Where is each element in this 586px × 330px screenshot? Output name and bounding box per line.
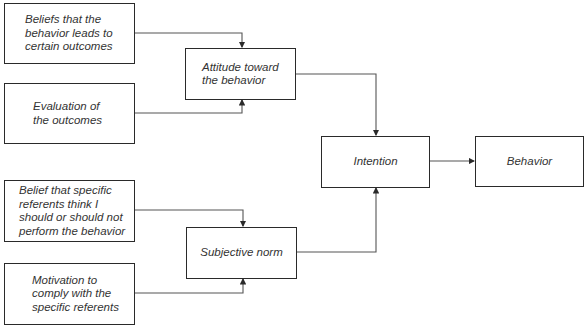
node-attitude: Attitude toward the behavior	[185, 48, 296, 100]
node-label: Evaluation of the outcomes	[33, 100, 102, 127]
node-label: Motivation to comply with the specific r…	[32, 274, 119, 315]
edge-evaluation-to-attitude	[134, 100, 242, 113]
node-label: Subjective norm	[200, 246, 282, 260]
edge-beliefs-to-attitude	[134, 33, 242, 47]
node-intention: Intention	[321, 136, 430, 188]
edge-motivation-to-norm	[134, 279, 243, 293]
node-belief-referents: Belief that specific referents think I s…	[4, 180, 135, 242]
edge-attitude-to-intention	[295, 74, 376, 135]
node-beliefs-outcomes: Beliefs that the behavior leads to certa…	[4, 3, 135, 64]
node-label: Behavior	[507, 155, 552, 169]
node-label: Beliefs that the behavior leads to certa…	[25, 13, 113, 54]
node-behavior: Behavior	[475, 136, 584, 187]
node-evaluation: Evaluation of the outcomes	[4, 83, 135, 144]
node-label: Attitude toward the behavior	[202, 61, 279, 88]
edge-norm-to-intention	[296, 188, 376, 252]
edge-belief-referents-to-norm	[134, 210, 243, 226]
node-motivation: Motivation to comply with the specific r…	[4, 263, 135, 325]
node-label: Belief that specific referents think I s…	[19, 184, 125, 238]
node-subjective-norm: Subjective norm	[186, 227, 297, 279]
node-label: Intention	[353, 155, 397, 169]
